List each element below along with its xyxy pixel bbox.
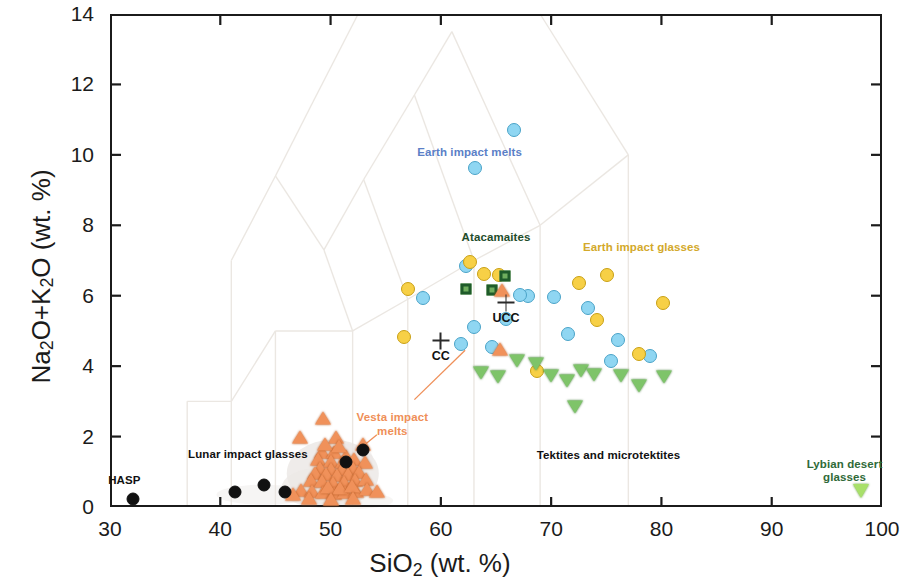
annotation-earth-impact-melts: Earth impact melts [417,146,522,160]
data-point-tektites-and-microtektites[interactable] [473,366,489,379]
y-axis-title: Na2O+K2O (wt. %) [26,116,59,436]
x-tick-label-50: 50 [319,517,342,541]
y-tick-label-14: 14 [0,2,94,26]
reference-marker-cc [432,332,449,349]
x-tick-label-30: 30 [98,517,121,541]
annotation-atacamaites: Atacamaites [462,231,531,245]
data-point-lunar-impact-glasses[interactable] [258,479,271,492]
annotation-lunar-impact-glasses: Lunar impact glasses [188,448,308,462]
data-point-earth-impact-melts[interactable] [611,333,625,347]
data-point-earth-impact-melts[interactable] [468,161,482,175]
data-point-tektites-and-microtektites[interactable] [586,369,602,382]
plot-area: 3040506070809010002468101214 UCCCC Earth… [0,0,900,586]
annotation-earth-impact-glasses: Earth impact glasses [583,241,700,255]
data-point-tektites-and-microtektites[interactable] [490,370,506,383]
x-tick-label-90: 90 [760,517,783,541]
plot-frame [110,14,882,507]
data-point-tektites-and-microtektites[interactable] [567,400,583,413]
x-tick-label-70: 70 [539,517,562,541]
y-tick-label-0: 0 [0,495,94,519]
data-point-earth-impact-glasses[interactable] [632,347,646,361]
data-point-lybian-desert-glasses[interactable] [853,484,869,498]
x-tick-label-100: 100 [864,517,899,541]
data-point-tektites-and-microtektites[interactable] [528,357,544,370]
x-tick-label-60: 60 [429,517,452,541]
data-point-earth-impact-glasses[interactable] [590,313,604,327]
data-point-tektites-and-microtektites[interactable] [613,369,629,382]
data-point-earth-impact-melts[interactable] [454,337,468,351]
data-point-lunar-impact-glasses[interactable] [340,455,353,468]
data-point-earth-impact-glasses[interactable] [397,330,411,344]
x-axis-title: SiO2 (wt. %) [369,548,510,581]
y-tick-label-12: 12 [0,72,94,96]
data-point-vesta-impact-melts[interactable] [331,439,347,452]
data-point-tektites-and-microtektites[interactable] [631,380,647,393]
data-point-lunar-impact-glasses[interactable] [127,493,140,506]
data-point-earth-impact-melts[interactable] [604,354,618,368]
data-point-earth-impact-glasses[interactable] [656,296,670,310]
data-point-earth-impact-glasses[interactable] [463,255,477,269]
data-point-earth-impact-glasses[interactable] [600,268,614,282]
data-point-earth-impact-glasses[interactable] [401,282,415,296]
data-point-earth-impact-glasses[interactable] [572,276,586,290]
data-point-vesta-impact-melts[interactable] [292,430,308,443]
annotation-tektites: Tektites and microtektites [537,449,681,463]
data-point-atacamaites[interactable] [461,284,472,295]
data-point-vesta-impact-melts[interactable] [345,492,361,505]
data-point-earth-impact-glasses[interactable] [477,267,491,281]
data-point-lunar-impact-glasses[interactable] [279,485,292,498]
data-point-earth-impact-melts[interactable] [467,320,481,334]
data-point-lunar-impact-glasses[interactable] [356,443,369,456]
annotation-hasp: HASP [108,474,140,488]
x-tick-label-40: 40 [209,517,232,541]
annotation-vesta-impact-melts: Vesta impact melts [357,411,429,438]
data-point-tektites-and-microtektites[interactable] [656,370,672,383]
reference-label-cc: CC [432,349,450,363]
x-tick-label-80: 80 [650,517,673,541]
data-point-tektites-and-microtektites[interactable] [509,354,525,367]
data-point-vesta-impact-melts[interactable] [301,492,317,505]
data-point-vesta-impact-melts[interactable] [492,343,508,356]
data-point-atacamaites[interactable] [499,271,510,282]
reference-marker-ucc [497,294,514,311]
data-point-earth-impact-melts[interactable] [561,327,575,341]
data-point-vesta-impact-melts[interactable] [315,412,331,425]
data-point-earth-impact-melts[interactable] [507,123,521,137]
data-point-lunar-impact-glasses[interactable] [228,486,241,499]
tas-diagram: 3040506070809010002468101214 UCCCC Earth… [0,0,900,586]
annotation-libyan-desert-glasses: Lybian desert glasses [807,458,883,485]
data-point-vesta-impact-melts[interactable] [369,484,385,497]
data-point-earth-impact-melts[interactable] [513,288,527,302]
reference-label-ucc: UCC [492,311,519,325]
data-point-earth-impact-melts[interactable] [547,290,561,304]
data-point-earth-impact-melts[interactable] [581,301,595,315]
data-point-vesta-impact-melts[interactable] [323,493,339,506]
data-point-earth-impact-melts[interactable] [416,291,430,305]
data-point-tektites-and-microtektites[interactable] [543,369,559,382]
